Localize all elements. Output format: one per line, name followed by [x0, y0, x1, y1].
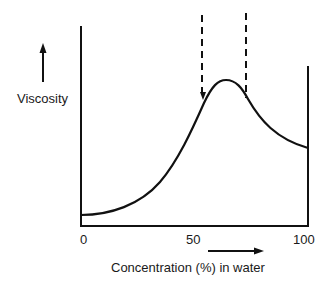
y-axis-arrow-icon — [40, 43, 47, 82]
chart-canvas — [0, 0, 331, 288]
x-tick-50: 50 — [186, 232, 200, 247]
x-axis-label: Concentration (%) in water — [111, 260, 265, 275]
x-axis-arrow-icon — [208, 248, 264, 255]
y-axis-label: Viscosity — [17, 91, 68, 106]
x-tick-0: 0 — [80, 232, 87, 247]
viscosity-curve — [81, 80, 308, 215]
x-tick-100: 100 — [293, 232, 315, 247]
